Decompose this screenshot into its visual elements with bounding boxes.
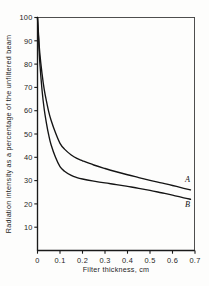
x-tick-label: 0.2 (77, 256, 88, 265)
x-tick-label: 0.7 (190, 256, 201, 265)
y-tick-label: 80 (24, 60, 33, 69)
y-tick-label: 40 (24, 153, 33, 162)
curve-a (38, 18, 191, 190)
y-tick-label: 90 (24, 37, 33, 46)
curve-labels: AB (184, 175, 191, 210)
x-tick-label: 0.4 (122, 256, 133, 265)
x-axis-title: Filter thickness, cm (83, 265, 150, 274)
radiation-intensity-chart: 102030405060708090100 00.10.20.30.40.50.… (0, 0, 209, 286)
y-tick-label: 20 (24, 200, 33, 209)
y-tick-label: 100 (20, 13, 33, 22)
y-tick-label: 60 (24, 106, 33, 115)
y-tick-label: 50 (24, 130, 33, 139)
x-tick-label: 0.3 (100, 256, 111, 265)
curve-label-b: B (185, 200, 190, 209)
y-axis-title: Radiation intensity as a percentage of t… (4, 35, 13, 233)
data-curves (38, 18, 191, 200)
y-tick-label: 10 (24, 223, 33, 232)
y-axis-ticks: 102030405060708090100 (20, 13, 38, 232)
plot-frame (38, 17, 196, 251)
curve-label-a: A (184, 175, 191, 184)
y-tick-label: 70 (24, 83, 33, 92)
x-tick-label: 0.6 (167, 256, 178, 265)
y-tick-label: 30 (24, 176, 33, 185)
x-axis-ticks: 00.10.20.30.40.50.60.7 (35, 251, 200, 265)
curve-b (38, 18, 191, 200)
figure-container: 102030405060708090100 00.10.20.30.40.50.… (0, 0, 209, 286)
x-tick-label: 0.1 (55, 256, 66, 265)
x-tick-label: 0 (35, 256, 39, 265)
x-tick-label: 0.5 (145, 256, 156, 265)
